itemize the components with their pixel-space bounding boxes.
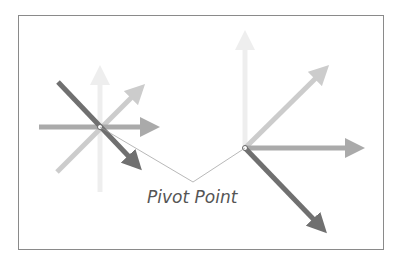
pivot-point-label: Pivot Point — [147, 187, 239, 207]
left-arrow-cluster — [39, 75, 150, 192]
diagonal-down-arrow — [245, 148, 320, 226]
leader-line — [100, 127, 245, 182]
diagonal-down-arrow — [58, 82, 135, 163]
pivot-diagram: Pivot Point — [0, 0, 404, 265]
diagonal-up-arrow — [245, 72, 322, 148]
right-arrow-cluster — [243, 40, 356, 226]
